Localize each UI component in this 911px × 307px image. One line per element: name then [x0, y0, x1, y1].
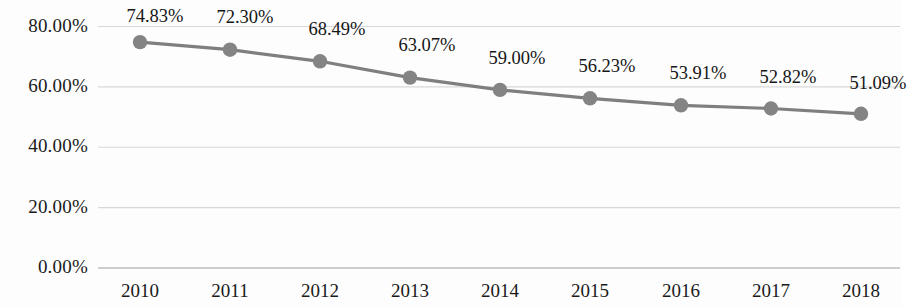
x-tick-label-2018: 2018 — [811, 280, 911, 302]
y-tick-label-40: 40.00% — [0, 135, 88, 157]
y-tick-label-80: 80.00% — [0, 15, 88, 37]
y-tick-label-0: 0.00% — [0, 256, 88, 278]
data-label-2018: 51.09% — [823, 73, 911, 94]
x-tick-label-2017: 2017 — [721, 280, 821, 302]
x-tick-label-2010: 2010 — [90, 280, 190, 302]
x-tick-label-2012: 2012 — [270, 280, 370, 302]
x-tick-label-2015: 2015 — [540, 280, 640, 302]
x-tick-label-2014: 2014 — [450, 280, 550, 302]
y-tick-label-60: 60.00% — [0, 75, 88, 97]
x-tick-label-2011: 2011 — [180, 280, 280, 302]
x-tick-label-2013: 2013 — [360, 280, 460, 302]
x-tick-label-2016: 2016 — [631, 280, 731, 302]
y-tick-label-20: 20.00% — [0, 196, 88, 218]
